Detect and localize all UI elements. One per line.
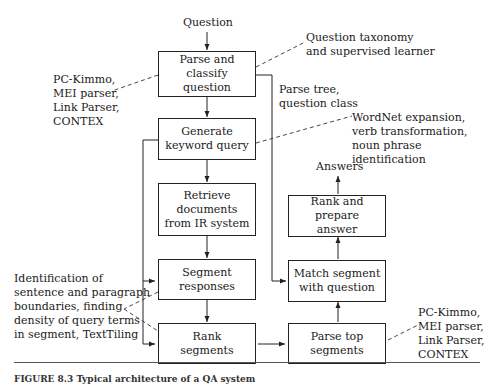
generate-query-box: Generate keyword query: [158, 118, 256, 160]
segment-responses-box: Segment responses: [158, 259, 256, 300]
segmentation-annotation: Identification of sentence and paragraph…: [14, 272, 150, 342]
wordnet-annotation: WordNet expansion, verb transformation, …: [352, 111, 495, 167]
parse-classify-box: Parse and classify question: [158, 51, 256, 97]
parsers-left-annotation: PC-Kimmo, MEI parser, Link Parser, CONTE…: [53, 73, 120, 129]
parse-top-segments-box: Parse top segments: [288, 323, 386, 364]
rank-segments-box: Rank segments: [158, 323, 256, 364]
parsers-right-annotation: PC-Kimmo, MEI parser, Link Parser, CONTE…: [418, 306, 485, 362]
retrieve-documents-box: Retrieve documents from IR system: [158, 183, 256, 236]
input-question-label: Question: [183, 16, 233, 30]
rank-prepare-answer-box: Rank and prepare answer: [288, 195, 386, 237]
figure-caption: FIGURE 8.3 Typical architecture of a QA …: [14, 374, 255, 384]
taxonomy-annotation: Question taxonomy and supervised learner: [306, 31, 435, 59]
parse-tree-annotation: Parse tree, question class: [279, 83, 358, 111]
caption-divider: [14, 362, 480, 363]
match-segment-box: Match segment with question: [288, 260, 386, 302]
